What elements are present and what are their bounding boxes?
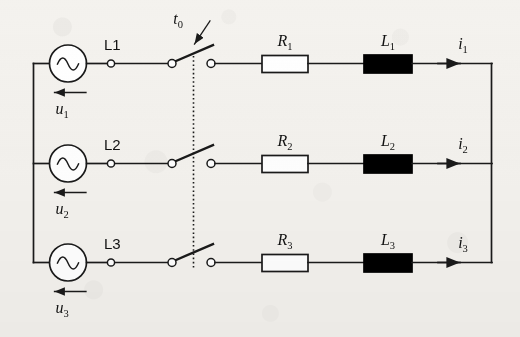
terminal-node-phase3 bbox=[107, 259, 114, 266]
resistor-1 bbox=[262, 56, 308, 73]
voltage2-label: u2 bbox=[55, 200, 68, 220]
current2-label: i2 bbox=[458, 135, 468, 155]
current3-label: i3 bbox=[458, 234, 468, 254]
switch-right-contact-1[interactable] bbox=[207, 60, 215, 68]
switch-time-callout-arrow bbox=[195, 21, 211, 44]
voltage3-label: u3 bbox=[55, 299, 68, 319]
circuit-diagram: t0 L1 L2 L3 u1 u2 u3 R1 R2 R3 L1 L2 L3 bbox=[0, 0, 520, 337]
resistor-2 bbox=[262, 156, 308, 173]
switch-right-contact-3[interactable] bbox=[207, 259, 215, 267]
inductor2-label: L2 bbox=[380, 132, 395, 152]
resistor3-label: R3 bbox=[276, 231, 292, 251]
current1-label: i1 bbox=[458, 35, 468, 55]
terminal-node-phase2 bbox=[107, 160, 114, 167]
resistor2-label: R2 bbox=[276, 132, 292, 152]
switch-blade-2[interactable] bbox=[176, 145, 213, 161]
phase2-label: L2 bbox=[104, 136, 121, 153]
inductor1-label: L1 bbox=[380, 32, 395, 52]
inductor-1 bbox=[364, 55, 412, 73]
terminal-node-phase1 bbox=[107, 60, 114, 67]
inductor-2 bbox=[364, 155, 412, 173]
phase3-label: L3 bbox=[104, 235, 121, 252]
inductor3-label: L3 bbox=[380, 231, 395, 251]
switch-blade-3[interactable] bbox=[176, 244, 213, 260]
switch-time-label: t0 bbox=[173, 10, 183, 30]
switch-right-contact-2[interactable] bbox=[207, 160, 215, 168]
switch-blade-1[interactable] bbox=[176, 45, 213, 61]
phase1-label: L1 bbox=[104, 36, 121, 53]
resistor-3 bbox=[262, 255, 308, 272]
voltage1-label: u1 bbox=[55, 100, 68, 120]
inductor-3 bbox=[364, 254, 412, 272]
resistor1-label: R1 bbox=[276, 32, 292, 52]
schematic-canvas: t0 L1 L2 L3 u1 u2 u3 R1 R2 R3 L1 L2 L3 bbox=[0, 0, 520, 337]
